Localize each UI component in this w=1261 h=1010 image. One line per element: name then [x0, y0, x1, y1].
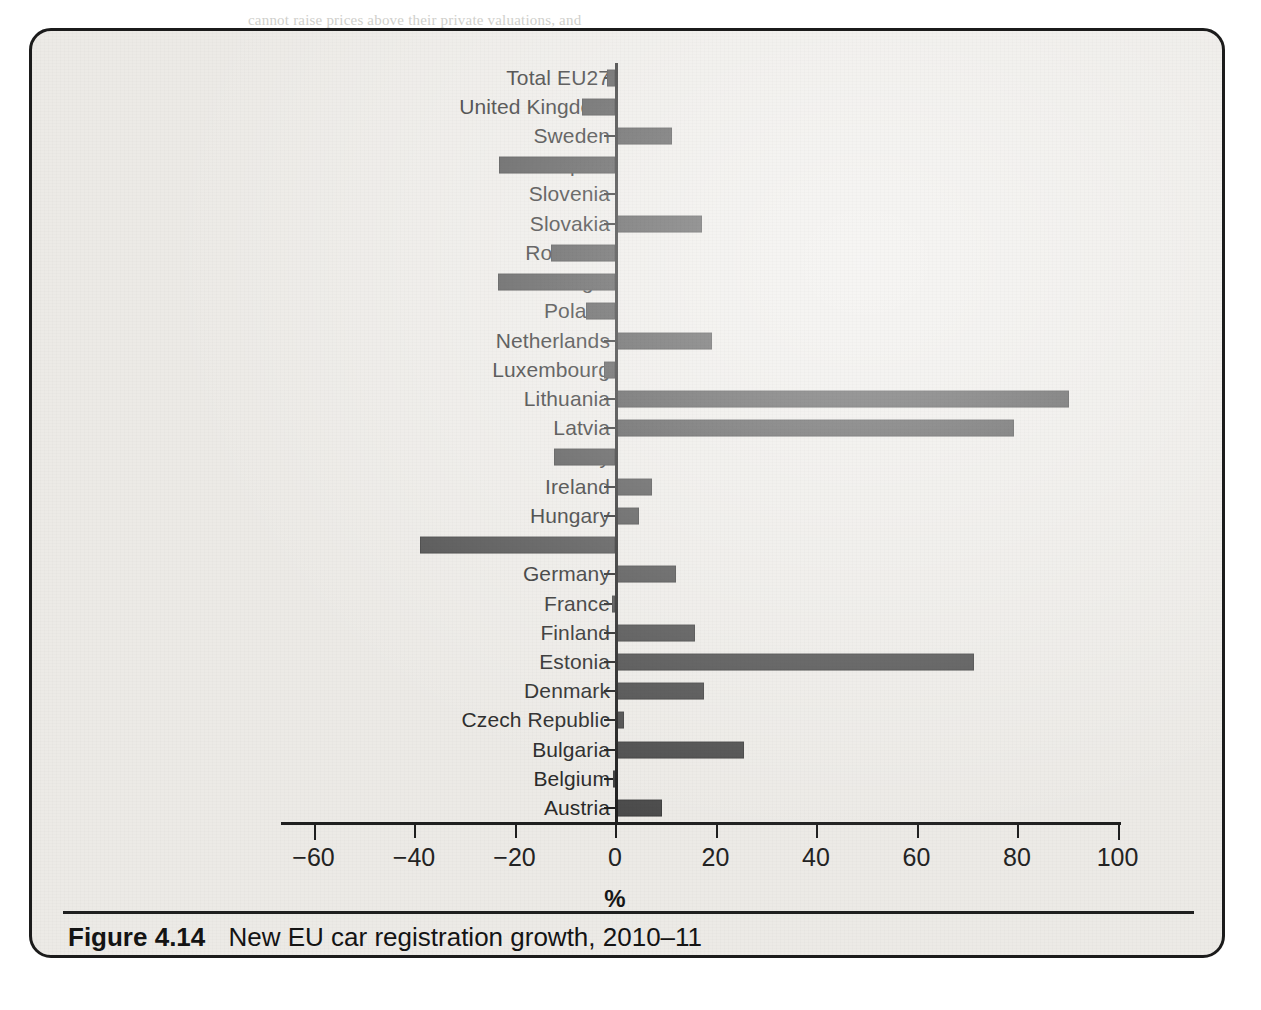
- category-label: Luxembourg: [492, 357, 610, 381]
- x-tick-label: 40: [802, 843, 830, 872]
- category-tick: [604, 135, 615, 137]
- value-bar: [617, 566, 676, 583]
- value-bar: [617, 420, 1014, 437]
- x-tick-label: −60: [292, 843, 334, 872]
- x-tick-mark: [816, 825, 818, 838]
- category-tick: [604, 427, 615, 429]
- chart-row: Bulgaria: [32, 735, 1225, 764]
- category-label: Total EU27: [506, 65, 610, 89]
- value-bar: [617, 624, 695, 641]
- category-label: Lithuania: [524, 387, 610, 411]
- value-bar: [582, 98, 615, 115]
- chart-row: Germany: [32, 560, 1225, 589]
- category-label: Finland: [540, 620, 610, 644]
- category-tick: [604, 515, 615, 517]
- caption-divider: [63, 911, 1194, 914]
- value-bar: [607, 69, 615, 86]
- value-bar: [551, 244, 615, 261]
- category-label: Slovenia: [529, 182, 610, 206]
- x-axis-line: [281, 822, 1121, 825]
- chart-row: Luxembourg: [32, 355, 1225, 384]
- value-bar: [617, 128, 672, 145]
- x-tick-mark: [917, 825, 919, 838]
- category-tick: [604, 398, 615, 400]
- chart-row: Belgium: [32, 764, 1225, 793]
- category-tick: [604, 661, 615, 663]
- x-tick-label: 0: [608, 843, 622, 872]
- bar-chart-plot-area: Total EU27United KingdomSwedenSpainSlove…: [32, 31, 1225, 958]
- value-bar: [617, 391, 1069, 408]
- category-label: Austria: [544, 796, 610, 820]
- value-bar: [617, 215, 702, 232]
- category-label: Netherlands: [496, 328, 610, 352]
- category-label: Denmark: [524, 679, 610, 703]
- x-tick-mark: [414, 825, 416, 838]
- category-tick: [604, 719, 615, 721]
- value-bar: [617, 741, 744, 758]
- chart-row: Slovakia: [32, 209, 1225, 238]
- chart-row: Slovenia: [32, 180, 1225, 209]
- category-label: Slovakia: [530, 211, 610, 235]
- value-bar: [617, 507, 639, 524]
- chart-row: Netherlands: [32, 326, 1225, 355]
- category-label: Estonia: [539, 650, 610, 674]
- x-tick-mark: [314, 825, 316, 840]
- scanned-book-page: cannot raise prices above their private …: [0, 0, 1261, 1010]
- category-label: Ireland: [545, 474, 610, 498]
- value-bar: [617, 800, 662, 817]
- value-bar: [617, 332, 712, 349]
- chart-row: Hungary: [32, 501, 1225, 530]
- category-tick: [604, 632, 615, 634]
- chart-row: Greece: [32, 531, 1225, 560]
- category-label: Germany: [523, 562, 610, 586]
- chart-row: Poland: [32, 297, 1225, 326]
- chart-row: Ireland: [32, 472, 1225, 501]
- chart-row: Latvia: [32, 414, 1225, 443]
- value-bar: [617, 683, 704, 700]
- category-tick: [604, 749, 615, 751]
- x-tick-mark: [1017, 825, 1019, 838]
- x-tick-mark: [716, 825, 718, 838]
- category-tick: [604, 807, 615, 809]
- x-axis-title: %: [604, 885, 625, 913]
- chart-row: Total EU27: [32, 63, 1225, 92]
- category-tick: [604, 690, 615, 692]
- value-bar: [617, 712, 624, 729]
- value-bar: [617, 478, 652, 495]
- bleed-through-line: cannot raise prices above their private …: [248, 12, 581, 29]
- category-label: France: [544, 591, 610, 615]
- chart-row: Austria: [32, 793, 1225, 822]
- figure-title: New EU car registration growth, 2010–11: [229, 922, 703, 952]
- category-label: Hungary: [530, 503, 610, 527]
- x-tick-mark: [515, 825, 517, 838]
- value-bar: [586, 303, 615, 320]
- category-label: Latvia: [553, 416, 610, 440]
- chart-row: Sweden: [32, 121, 1225, 150]
- chart-rows: Total EU27United KingdomSwedenSpainSlove…: [32, 63, 1225, 823]
- chart-row: Estonia: [32, 647, 1225, 676]
- chart-row: Finland: [32, 618, 1225, 647]
- category-label: Bulgaria: [532, 737, 610, 761]
- figure-number: Figure 4.14: [68, 922, 205, 952]
- chart-row: Lithuania: [32, 384, 1225, 413]
- category-tick: [604, 486, 615, 488]
- value-bar: [554, 449, 615, 466]
- value-bar: [499, 157, 615, 174]
- chart-row: Spain: [32, 151, 1225, 180]
- chart-row: Portugal: [32, 268, 1225, 297]
- category-tick: [604, 193, 615, 195]
- category-tick: [604, 223, 615, 225]
- category-label: Czech Republic: [462, 708, 610, 732]
- x-tick-mark: [1118, 825, 1120, 840]
- chart-row: Denmark: [32, 677, 1225, 706]
- x-tick-label: −20: [493, 843, 535, 872]
- x-tick-mark: [615, 825, 617, 838]
- x-tick-label: 20: [702, 843, 730, 872]
- figure-frame: Total EU27United KingdomSwedenSpainSlove…: [29, 28, 1225, 958]
- chart-row: United Kingdom: [32, 92, 1225, 121]
- figure-caption: Figure 4.14 New EU car registration grow…: [68, 922, 702, 953]
- category-label: Sweden: [534, 124, 611, 148]
- zero-axis-line: [615, 63, 618, 823]
- chart-row: Czech Republic: [32, 706, 1225, 735]
- value-bar: [420, 537, 615, 554]
